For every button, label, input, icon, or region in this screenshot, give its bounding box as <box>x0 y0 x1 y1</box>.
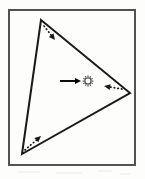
right-edge-arrow-head <box>104 84 111 90</box>
center-pointer-arrow <box>60 78 81 84</box>
sun-burst-marker <box>83 76 94 87</box>
center-pointer-arrow-head <box>75 78 81 84</box>
right-edge-arrow-shaft <box>110 87 122 89</box>
sun-burst-core <box>85 78 91 84</box>
top-edge-arrow-head <box>49 33 55 40</box>
sun-burst-rays <box>83 76 94 87</box>
triangle-diagram-canvas <box>0 0 145 179</box>
figure-container <box>0 0 145 179</box>
border-frame <box>9 10 135 165</box>
bottom-left-edge-arrow-head <box>34 136 41 142</box>
